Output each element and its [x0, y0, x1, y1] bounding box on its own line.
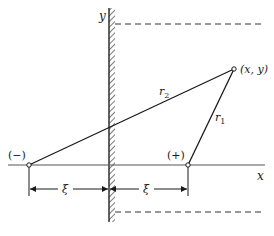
negative-charge-point	[27, 163, 31, 167]
r2-label: r2	[159, 85, 169, 100]
conducting-wall	[109, 8, 115, 222]
positive-charge-label: (+)	[167, 149, 185, 162]
field-point-label: (x, y)	[240, 63, 268, 76]
positive-charge-point	[186, 163, 190, 167]
r2-line	[29, 69, 234, 165]
r1-line	[188, 69, 234, 165]
right-xi-label: ξ	[143, 183, 150, 196]
left-xi-label: ξ	[62, 183, 69, 196]
negative-charge-label: (−)	[8, 149, 26, 162]
y-axis-label: y	[98, 9, 106, 23]
x-axis-label: x	[257, 169, 264, 183]
r1-label: r1	[215, 111, 225, 126]
image-charges-diagram: y x (−) (+) (x, y) r2 r1 ξ ξ	[0, 0, 274, 236]
field-point	[232, 67, 236, 71]
